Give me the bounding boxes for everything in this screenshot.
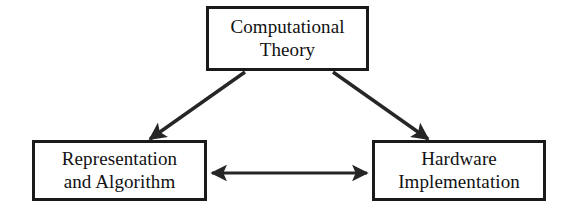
node-representation-and-algorithm: Representation and Algorithm — [32, 140, 207, 201]
node-hardware-implementation-label: Hardware Implementation — [392, 148, 526, 193]
edge-theory-to-representation — [150, 72, 245, 139]
diagram-canvas: Computational Theory Representation and … — [0, 0, 565, 220]
node-computational-theory-label: Computational Theory — [224, 16, 350, 61]
edge-theory-to-hardware — [333, 72, 428, 139]
node-hardware-implementation: Hardware Implementation — [372, 140, 546, 201]
node-computational-theory: Computational Theory — [206, 6, 369, 71]
node-representation-and-algorithm-label: Representation and Algorithm — [56, 148, 183, 193]
